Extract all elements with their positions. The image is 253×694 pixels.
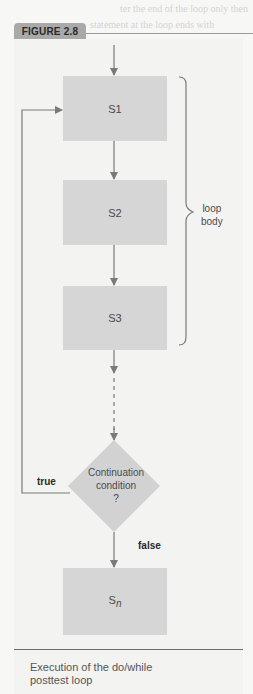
- sn-label: Sn: [109, 594, 122, 609]
- true-label: true: [37, 476, 56, 487]
- loop-body-label: loop body: [201, 202, 223, 228]
- decision-label: Continuation condition ?: [70, 466, 162, 505]
- false-label: false: [138, 540, 161, 551]
- caption-separator: [14, 649, 243, 650]
- s3-label: S3: [108, 312, 121, 324]
- statement-box-s3: S3: [63, 286, 167, 350]
- statement-box-sn: Sn: [63, 568, 167, 635]
- s2-label: S2: [108, 207, 121, 219]
- statement-box-s1: S1: [63, 76, 167, 141]
- figure-caption: Execution of the do/while posttest loop: [30, 661, 240, 687]
- loop-body-brace: [179, 77, 193, 345]
- statement-box-s2: S2: [63, 180, 167, 245]
- s1-label: S1: [108, 103, 121, 115]
